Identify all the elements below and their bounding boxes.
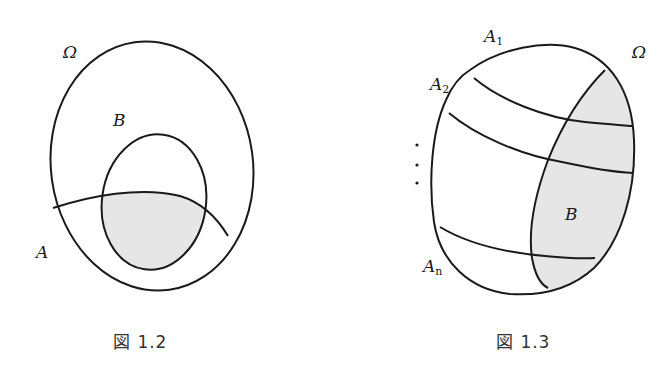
a1-label: A1 [482,26,503,48]
a2-label: A2 [428,74,449,96]
figure-caption: 図 1.3 [496,332,550,352]
ellipsis-dots [415,143,418,184]
an-label: An [421,256,442,278]
event-b-label: B [564,204,578,224]
figure-1-3: A1 Ω A2 An B 図 1.3 [415,26,650,352]
event-b-label: B [112,110,126,130]
event-a-label: A [34,242,48,262]
figure-caption: 図 1.2 [113,332,167,352]
figure-1-2: Ω B A 図 1.2 [34,28,269,352]
omega-label: Ω [62,42,77,62]
diagram-canvas: Ω B A 図 1.2 A1 Ω A2 An B 図 1.3 [0,0,670,370]
omega-label: Ω [631,42,646,62]
